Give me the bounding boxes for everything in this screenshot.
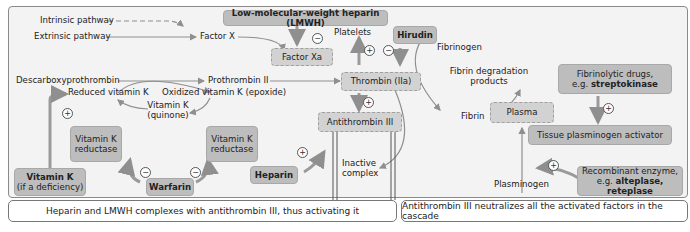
fibrin-degradation-label: Fibrin degradation products	[444, 67, 534, 87]
alteplase-reteplase-label: alteplase, reteplase	[607, 176, 663, 196]
plus-icon: +	[364, 45, 375, 56]
thrombin-label: Thrombin (IIa)	[351, 76, 412, 86]
reductase-right-line1: Vitamin K	[211, 134, 252, 144]
hirudin-box: Hirudin	[393, 26, 437, 44]
reduced-vitamin-k-label: Reduced vitamin K	[68, 88, 149, 98]
vitamin-k-supplement-label: Vitamin K	[26, 172, 73, 182]
tpa-label: Tissue plasminogen activator	[537, 130, 663, 140]
extrinsic-pathway-label: Extrinsic pathway	[34, 32, 111, 42]
antithrombin-label: Antithrombin III	[327, 117, 394, 127]
inactive-complex: Inactive complex	[342, 159, 378, 179]
minus-icon: −	[140, 167, 151, 178]
fibrinolytic-drugs-box: Fibrinolytic drugs, e.g. streptokinase	[558, 64, 672, 94]
lmwh-label: Low-molecular-weight heparin (LMWH)	[224, 8, 387, 29]
antithrombin-box: Antithrombin III	[318, 112, 402, 132]
eg-label: e.g.	[572, 79, 591, 89]
minus-icon: −	[383, 45, 394, 56]
descarboxyprothrombin-label: Descarboxyprothrombin	[16, 76, 120, 86]
inactive-complex-line2: complex	[342, 169, 378, 179]
vitamin-k-quinone-line2: (quinone)	[144, 111, 192, 121]
note-left: Heparin and LMWH complexes with antithro…	[8, 200, 397, 222]
warfarin-box: Warfarin	[146, 178, 194, 196]
note-left-text: Heparin and LMWH complexes with antithro…	[46, 206, 359, 216]
lmwh-box: Low-molecular-weight heparin (LMWH)	[223, 10, 388, 26]
minus-icon: −	[312, 33, 323, 44]
fibrinolytic-drugs-label: Fibrinolytic drugs,	[577, 69, 654, 79]
streptokinase-label: streptokinase	[591, 79, 658, 89]
eg-label: e.g.	[597, 176, 616, 186]
reductase-left-line1: Vitamin K	[75, 134, 116, 144]
plus-icon: +	[363, 97, 374, 108]
vitamin-k-reductase-left-box: Vitamin K reductase	[70, 126, 122, 162]
factor-x-label: Factor X	[200, 32, 235, 42]
warfarin-label: Warfarin	[149, 182, 191, 192]
plasma-label: Plasma	[507, 107, 538, 117]
factor-xa-box: Factor Xa	[271, 48, 333, 66]
oxidized-vitamin-k-label: Oxidized vitamin K (epoxide)	[162, 88, 286, 98]
plus-icon: +	[62, 108, 73, 119]
plus-icon: +	[548, 160, 559, 171]
fibrinogen-label: Fibrinogen	[437, 43, 482, 53]
heparin-label: Heparin	[255, 170, 293, 180]
tpa-box: Tissue plasminogen activator	[528, 125, 672, 145]
thrombin-box: Thrombin (IIa)	[341, 72, 421, 91]
heparin-box: Heparin	[250, 166, 298, 184]
recombinant-label: Recombinant enzyme,	[582, 166, 678, 176]
platelets-label: Platelets	[334, 28, 371, 38]
note-right: Antithrombin III neutralizes all the act…	[401, 200, 688, 222]
plus-icon: +	[297, 147, 308, 158]
hirudin-label: Hirudin	[397, 30, 433, 40]
vitamin-k-reductase-right-box: Vitamin K reductase	[206, 126, 258, 162]
fibrin-label: Fibrin	[461, 112, 485, 122]
plasma-box: Plasma	[490, 102, 554, 123]
intrinsic-pathway-label: Intrinsic pathway	[40, 16, 114, 26]
vitamin-k-quinone: Vitamin K (quinone)	[144, 101, 192, 121]
plasminogen-label: Plasminogen	[494, 180, 549, 190]
prothrombin-label: Prothrombin II	[208, 76, 269, 86]
reductase-right-line2: reductase	[211, 144, 254, 154]
recombinant-enzyme-box: Recombinant enzyme, e.g. alteplase, rete…	[577, 166, 683, 196]
note-right-text: Antithrombin III neutralizes all the act…	[402, 201, 687, 221]
factor-xa-label: Factor Xa	[282, 52, 322, 62]
reductase-left-line2: reductase	[75, 144, 118, 154]
plus-icon: +	[603, 103, 614, 114]
deficiency-note: (if a deficiency)	[17, 182, 84, 192]
vitamin-k-supplement-box: Vitamin K (if a deficiency)	[14, 168, 86, 196]
minus-icon: −	[190, 167, 201, 178]
